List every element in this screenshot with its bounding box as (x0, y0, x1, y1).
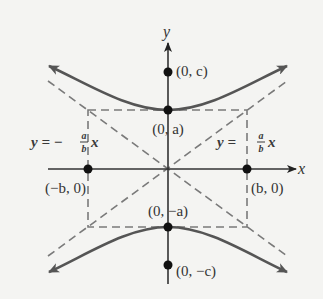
point-co-vertex-left (84, 165, 93, 174)
label-focus-bottom: (0, −c) (176, 263, 216, 280)
label-co-vertex-left: (−b, 0) (45, 180, 86, 197)
point-vertex-bottom (164, 223, 173, 232)
point-focus-top (164, 68, 173, 77)
y-axis-label: y (161, 23, 171, 41)
asymptote-right-equation: y = a b x (215, 130, 276, 154)
asymptote-right-suffix: x (267, 134, 276, 150)
label-focus-top: (0, c) (176, 63, 208, 80)
point-vertex-top (164, 106, 173, 115)
asymptote-left-suffix: x (90, 134, 99, 150)
label-vertex-top: (0, a) (152, 121, 184, 138)
x-axis-label: x (297, 160, 305, 177)
asymptote-right-num: a (259, 130, 264, 141)
asymptote-left-num: a (82, 130, 87, 141)
asymptote-right-den: b (259, 143, 264, 154)
label-co-vertex-right: (b, 0) (251, 180, 284, 197)
asymptote-right-prefix: y = (215, 134, 236, 150)
point-co-vertex-right (243, 165, 252, 174)
point-focus-bottom (164, 261, 173, 270)
hyperbola-lower-branch (49, 227, 168, 272)
asymptote-left-prefix: y = − (29, 134, 63, 150)
hyperbola-upper-branch (49, 66, 168, 110)
diagram-canvas: y x (0, c) (0, a) (−b, 0) (b, 0) (0, −a)… (0, 0, 323, 299)
asymptote-left-den: b (82, 143, 87, 154)
label-vertex-bottom: (0, −a) (148, 203, 188, 220)
hyperbola-diagram: y x (0, c) (0, a) (−b, 0) (b, 0) (0, −a)… (0, 0, 323, 299)
